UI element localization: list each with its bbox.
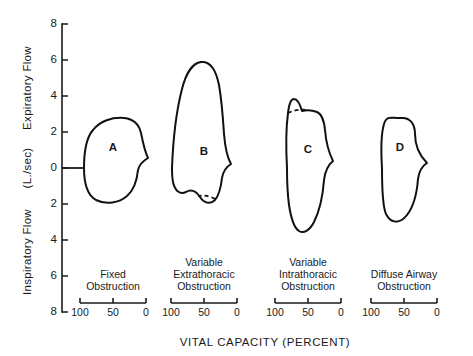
panel-d-scale-label-0: 0	[434, 306, 440, 318]
panel-b-scale-label-50: 50	[198, 306, 210, 318]
loop-curve-b	[172, 62, 231, 203]
y-tick-label-4-insp: 4	[51, 233, 58, 245]
y-tick-label-6-exp: 6	[51, 53, 57, 65]
panel-c-scale-label-50: 50	[302, 306, 314, 318]
loop-curve-a	[84, 118, 148, 203]
x-axis-title: VITAL CAPACITY (PERCENT)	[180, 336, 351, 348]
panel-d-scalebar	[371, 298, 437, 303]
panel-letter-b: B	[200, 145, 208, 157]
y-tick-label-8-exp: 8	[51, 17, 57, 29]
panel-c-scale-label-0: 0	[338, 306, 344, 318]
panel-b-scale-label-100: 100	[162, 306, 180, 318]
loop-curve-d	[381, 118, 427, 222]
y-axis-title-expiratory: Expiratory Flow	[21, 46, 33, 130]
loop-curve-c	[286, 99, 333, 232]
flow-volume-loops-chart: 8 6 4 2 0 2 4 6 8 Expiratory Flow (L./se…	[0, 0, 473, 356]
panel-b-scalebar	[171, 298, 237, 303]
y-tick-label-4-exp: 4	[51, 89, 58, 101]
y-tick-label-6-insp: 6	[51, 269, 57, 281]
panel-letter-c: C	[304, 143, 312, 155]
panel-a-scale-label-100: 100	[71, 306, 89, 318]
panel-a-fixed-obstruction: A Fixed Obstruction 100 50 0	[71, 118, 149, 318]
panel-b-caption-line-2: Extrathoracic	[173, 268, 234, 280]
panel-a-scale-label-0: 0	[143, 306, 149, 318]
panel-c-caption-line-2: Intrathoracic	[279, 268, 337, 280]
y-axis-group: 8 6 4 2 0 2 4 6 8 Expiratory Flow (L./se…	[21, 17, 84, 317]
panel-letter-d: D	[396, 141, 404, 153]
panel-a-caption-line-1: Fixed	[100, 268, 126, 280]
y-tick-label-2-exp: 2	[51, 125, 57, 137]
panel-d-scale-label-50: 50	[398, 306, 410, 318]
y-axis-title-units: (L./sec)	[21, 148, 33, 189]
panel-a-caption-line-2: Obstruction	[86, 280, 140, 292]
panel-a-scale-label-50: 50	[107, 306, 119, 318]
panel-d-diffuse-airway-obstruction: D Diffuse Airway Obstruction 100 50 0	[362, 118, 440, 318]
panel-d-caption-line-1: Diffuse Airway	[371, 268, 438, 280]
panel-d-caption-line-2: Obstruction	[377, 280, 431, 292]
y-tick-label-0: 0	[51, 161, 57, 173]
panel-c-caption-line-1: Variable	[289, 256, 327, 268]
panel-b-variable-extrathoracic-obstruction: B Variable Extrathoracic Obstruction 100…	[162, 62, 240, 318]
panel-c-variable-intrathoracic-obstruction: C Variable Intrathoracic Obstruction 100…	[266, 99, 344, 318]
panel-c-scalebar	[275, 298, 341, 303]
panel-b-caption-line-3: Obstruction	[177, 280, 231, 292]
panel-letter-a: A	[109, 141, 117, 153]
panel-b-caption-line-1: Variable	[185, 256, 223, 268]
panel-c-scale-label-100: 100	[266, 306, 284, 318]
panel-d-scale-label-100: 100	[362, 306, 380, 318]
y-tick-label-2-insp: 2	[51, 197, 57, 209]
y-axis-title-inspiratory: Inspiratory Flow	[21, 209, 33, 295]
panel-a-scalebar	[80, 298, 146, 303]
flow-volume-figure-root: 8 6 4 2 0 2 4 6 8 Expiratory Flow (L./se…	[0, 0, 473, 356]
panel-b-scale-label-0: 0	[234, 306, 240, 318]
panel-c-caption-line-3: Obstruction	[281, 280, 335, 292]
y-tick-label-8-insp: 8	[51, 305, 57, 317]
